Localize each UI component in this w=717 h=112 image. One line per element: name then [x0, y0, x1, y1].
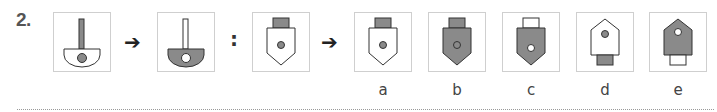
key-handle-icon [54, 13, 110, 71]
pentagon-plug-icon [355, 13, 411, 71]
figure-3 [252, 12, 310, 72]
option-a-label: a [354, 81, 412, 99]
key-handle-icon [158, 13, 214, 71]
pentagon-plug-icon [650, 13, 706, 71]
pentagon-plug-icon [429, 13, 485, 71]
option-e-label: e [649, 81, 707, 99]
option-d-label: d [576, 81, 634, 99]
figure-1 [53, 12, 111, 72]
pentagon-plug-icon [503, 13, 559, 71]
option-e[interactable] [649, 12, 707, 72]
option-c[interactable] [502, 12, 560, 72]
option-a[interactable] [354, 12, 412, 72]
figure-2 [157, 12, 215, 72]
arrow-icon: ➔ [321, 30, 338, 54]
option-d[interactable] [576, 12, 634, 72]
option-b-label: b [428, 81, 486, 99]
dotted-separator [17, 109, 714, 110]
question-number: 2. [16, 9, 31, 31]
option-c-label: c [502, 81, 560, 99]
option-b[interactable] [428, 12, 486, 72]
pentagon-plug-icon [253, 13, 309, 71]
relation-colon: : [230, 27, 238, 51]
pentagon-plug-icon [577, 13, 633, 71]
arrow-icon: ➔ [124, 30, 141, 54]
